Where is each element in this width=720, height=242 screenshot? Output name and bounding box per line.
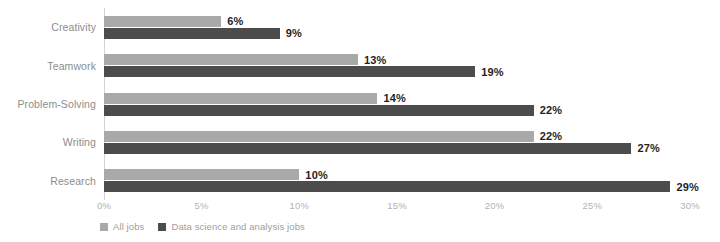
category-label-problem-solving: Problem-Solving xyxy=(0,98,96,110)
bar-data-science-and-analysis-jobs[interactable] xyxy=(104,28,280,39)
bar-value-label: 6% xyxy=(227,15,243,27)
x-axis-ticks: 0%5%10%15%20%25%30% xyxy=(104,200,690,216)
chart-legend: All jobsData science and analysis jobs xyxy=(100,221,305,232)
bar-row: 29% xyxy=(104,181,690,192)
bar-all-jobs[interactable] xyxy=(104,131,534,142)
bar-row: 22% xyxy=(104,131,690,142)
bar-row: 9% xyxy=(104,28,690,39)
bar-all-jobs[interactable] xyxy=(104,54,358,65)
bar-value-label: 13% xyxy=(364,54,387,66)
bar-row: 10% xyxy=(104,169,690,180)
x-tick-label-20pct: 20% xyxy=(485,200,505,211)
bar-chart: CreativityTeamworkProblem-SolvingWriting… xyxy=(0,0,720,242)
legend-item-data-science-and-analysis-jobs[interactable]: Data science and analysis jobs xyxy=(158,221,304,232)
category-axis-labels: CreativityTeamworkProblem-SolvingWriting… xyxy=(0,8,96,200)
plot-area: 6%9%13%19%14%22%22%27%10%29% xyxy=(104,8,690,200)
category-label-research: Research xyxy=(0,175,96,187)
bar-row: 27% xyxy=(104,143,690,154)
legend-swatch-icon xyxy=(100,223,108,231)
legend-swatch-icon xyxy=(158,223,166,231)
bar-row: 6% xyxy=(104,16,690,27)
bar-row: 19% xyxy=(104,66,690,77)
bar-group: 13%19% xyxy=(104,54,690,77)
category-label-writing: Writing xyxy=(0,136,96,148)
category-label-creativity: Creativity xyxy=(0,21,96,33)
x-tick-label-15pct: 15% xyxy=(387,200,407,211)
bar-value-label: 27% xyxy=(637,142,660,154)
x-tick-label-0pct: 0% xyxy=(97,200,111,211)
bar-row: 13% xyxy=(104,54,690,65)
bar-value-label: 29% xyxy=(676,181,699,193)
bar-data-science-and-analysis-jobs[interactable] xyxy=(104,66,475,77)
bar-row: 22% xyxy=(104,105,690,116)
x-tick-label-5pct: 5% xyxy=(195,200,209,211)
legend-label: Data science and analysis jobs xyxy=(171,221,304,232)
bar-value-label: 9% xyxy=(286,27,302,39)
bar-value-label: 14% xyxy=(383,92,406,104)
bar-group: 10%29% xyxy=(104,169,690,192)
bar-group: 14%22% xyxy=(104,93,690,116)
bar-data-science-and-analysis-jobs[interactable] xyxy=(104,143,631,154)
bar-value-label: 10% xyxy=(305,169,328,181)
legend-label: All jobs xyxy=(113,221,144,232)
bar-all-jobs[interactable] xyxy=(104,16,221,27)
category-label-teamwork: Teamwork xyxy=(0,60,96,72)
bar-data-science-and-analysis-jobs[interactable] xyxy=(104,181,670,192)
bar-value-label: 22% xyxy=(540,130,563,142)
bar-data-science-and-analysis-jobs[interactable] xyxy=(104,105,534,116)
bar-all-jobs[interactable] xyxy=(104,169,299,180)
bar-value-label: 22% xyxy=(540,104,563,116)
bar-all-jobs[interactable] xyxy=(104,93,377,104)
bar-row: 14% xyxy=(104,93,690,104)
x-tick-label-10pct: 10% xyxy=(290,200,310,211)
bar-group: 22%27% xyxy=(104,131,690,154)
x-tick-label-30pct: 30% xyxy=(680,200,700,211)
bar-group: 6%9% xyxy=(104,16,690,39)
x-tick-label-25pct: 25% xyxy=(583,200,603,211)
bar-value-label: 19% xyxy=(481,66,504,78)
legend-item-all-jobs[interactable]: All jobs xyxy=(100,221,144,232)
